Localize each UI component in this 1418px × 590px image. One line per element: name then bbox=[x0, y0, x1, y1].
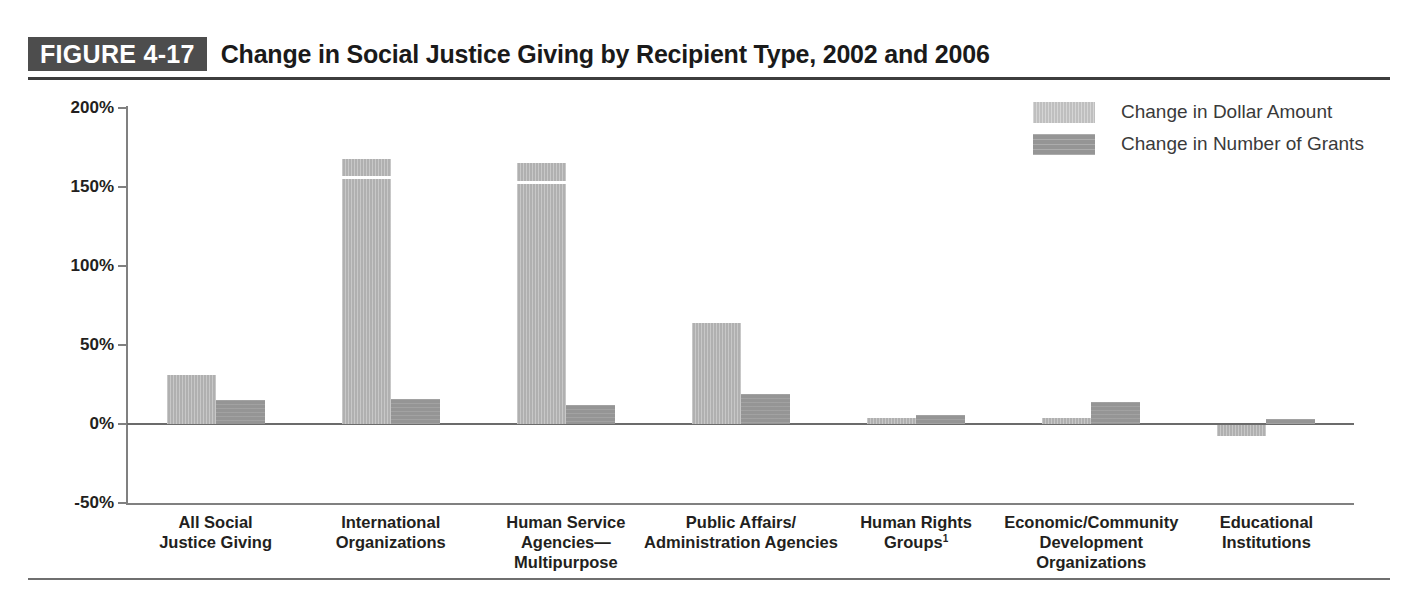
y-tick-mark bbox=[118, 502, 127, 504]
x-axis-label-line: Institutions bbox=[1151, 532, 1382, 552]
bar-dollar[interactable] bbox=[1217, 425, 1266, 436]
chart-plot-area: 200%150%100%50%0%-50% All SocialJustice … bbox=[0, 0, 1418, 590]
y-axis-line bbox=[126, 106, 128, 505]
footer-divider bbox=[28, 578, 1390, 580]
y-tick-mark bbox=[118, 107, 127, 109]
bar-dollar[interactable] bbox=[692, 323, 741, 424]
y-tick-mark bbox=[118, 186, 127, 188]
bar-grants[interactable] bbox=[1266, 419, 1315, 424]
x-axis-label: EducationalInstitutions bbox=[1151, 512, 1382, 552]
bar-dollar[interactable] bbox=[167, 375, 216, 424]
bar-grants[interactable] bbox=[1091, 402, 1140, 424]
x-axis-label-line: Educational bbox=[1151, 512, 1382, 532]
legend-item-dollar[interactable]: Change in Dollar Amount bbox=[1033, 96, 1373, 128]
legend-item-grants[interactable]: Change in Number of Grants bbox=[1033, 128, 1373, 160]
y-tick-label: 200% bbox=[52, 98, 114, 118]
bar-dollar[interactable] bbox=[1042, 418, 1091, 424]
y-tick-label: 0% bbox=[52, 414, 114, 434]
bar-dollar[interactable] bbox=[867, 418, 916, 424]
y-tick-mark bbox=[118, 423, 127, 425]
y-tick-label: 50% bbox=[52, 335, 114, 355]
bar-grants[interactable] bbox=[391, 399, 440, 424]
bar-highlight-line bbox=[517, 181, 566, 184]
bar-grants[interactable] bbox=[916, 415, 965, 424]
bar-dollar[interactable] bbox=[342, 159, 391, 424]
y-tick-mark bbox=[118, 344, 127, 346]
x-axis-label-line: Multipurpose bbox=[450, 552, 681, 572]
bar-grants[interactable] bbox=[566, 405, 615, 424]
figure-container: FIGURE 4-17 Change in Social Justice Giv… bbox=[0, 0, 1418, 590]
bar-grants[interactable] bbox=[741, 394, 790, 424]
y-tick-mark bbox=[118, 265, 127, 267]
x-axis-line bbox=[126, 503, 1354, 505]
legend-label-dollar: Change in Dollar Amount bbox=[1121, 101, 1332, 123]
bar-highlight-line bbox=[342, 176, 391, 179]
bar-dollar[interactable] bbox=[517, 163, 566, 424]
bar-grants[interactable] bbox=[216, 400, 265, 424]
y-tick-label: 150% bbox=[52, 177, 114, 197]
legend-label-grants: Change in Number of Grants bbox=[1121, 133, 1364, 155]
x-axis-label-line: Organizations bbox=[976, 552, 1207, 572]
y-tick-label: 100% bbox=[52, 256, 114, 276]
legend-swatch-grants-icon bbox=[1033, 134, 1095, 155]
legend-swatch-dollar-icon bbox=[1033, 102, 1095, 123]
y-tick-label: -50% bbox=[52, 493, 114, 513]
chart-legend: Change in Dollar Amount Change in Number… bbox=[1033, 96, 1373, 160]
